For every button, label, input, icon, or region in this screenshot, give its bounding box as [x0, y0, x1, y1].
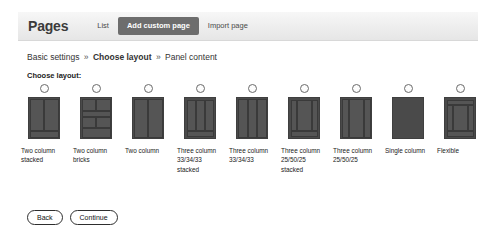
layout-radio-two-column-stacked[interactable] — [40, 84, 49, 93]
layout-radio-two-column-bricks[interactable] — [92, 84, 101, 93]
layout-segment — [205, 100, 214, 131]
layout-radio-three-column-33-34-33[interactable] — [248, 84, 257, 93]
layout-option-three-column-33-34-33-stacked[interactable]: Three column 33/34/33 stacked — [174, 84, 226, 174]
tab-import-page[interactable]: Import page — [201, 18, 255, 34]
layout-thumbnail-three-column-33-34-33-stacked[interactable] — [184, 97, 216, 139]
layout-segment — [447, 131, 474, 137]
layout-segment — [82, 128, 111, 138]
tab-add-custom-page[interactable]: Add custom page — [118, 17, 199, 35]
layout-option-label: Three column 25/50/25 stacked — [281, 146, 327, 174]
layout-segment — [96, 117, 111, 128]
layout-radio-single-column[interactable] — [404, 84, 413, 93]
layout-option-three-column-25-50-25-stacked[interactable]: Three column 25/50/25 stacked — [278, 84, 330, 174]
back-button[interactable]: Back — [27, 210, 63, 225]
layout-options-row: Two column stackedTwo column bricksTwo c… — [18, 84, 486, 174]
tab-list[interactable]: List — [90, 18, 116, 34]
layout-option-label: Two column bricks — [73, 146, 119, 165]
layout-segment — [196, 100, 205, 131]
layout-thumbnail-three-column-25-50-25-stacked[interactable] — [288, 97, 320, 139]
wizard-footer: Back Continue — [27, 210, 118, 225]
layout-thumbnail-three-column-25-50-25[interactable] — [340, 97, 372, 139]
layout-segment — [82, 117, 96, 128]
layout-segment — [187, 131, 214, 137]
layout-segment — [96, 99, 111, 111]
layout-segment — [82, 99, 96, 111]
layout-radio-two-column[interactable] — [144, 84, 153, 93]
breadcrumb-separator: » — [156, 52, 161, 62]
layout-option-label: Three column 33/34/33 — [229, 146, 275, 165]
layout-thumbnail-two-column[interactable] — [132, 97, 164, 139]
layout-option-three-column-25-50-25[interactable]: Three column 25/50/25 — [330, 84, 382, 165]
layout-segment — [30, 99, 44, 131]
layout-thumbnail-two-column-stacked[interactable] — [28, 97, 60, 139]
layout-option-label: Two column — [125, 146, 171, 155]
layout-segment — [468, 105, 474, 131]
layout-segment — [44, 99, 59, 131]
layout-thumbnail-three-column-33-34-33[interactable] — [236, 97, 268, 139]
layout-segment — [248, 99, 257, 138]
layout-radio-flexible[interactable] — [456, 84, 465, 93]
page-header-bar: Pages List Add custom page Import page — [18, 12, 478, 41]
breadcrumb-separator: » — [84, 52, 89, 62]
layout-segment — [312, 100, 318, 131]
layout-thumbnail-single-column[interactable] — [392, 97, 424, 139]
layout-segment — [148, 99, 163, 138]
breadcrumb-item-panel-content: Panel content — [165, 52, 217, 62]
layout-segment — [342, 99, 349, 138]
continue-button[interactable]: Continue — [70, 210, 118, 225]
layout-option-label: Two column stacked — [21, 146, 67, 165]
layout-option-two-column-stacked[interactable]: Two column stacked — [18, 84, 70, 165]
layout-radio-three-column-33-34-33-stacked[interactable] — [196, 84, 205, 93]
layout-radio-three-column-25-50-25[interactable] — [352, 84, 361, 93]
layout-option-two-column-bricks[interactable]: Two column bricks — [70, 84, 122, 165]
breadcrumb: Basic settings » Choose layout » Panel c… — [27, 52, 217, 62]
breadcrumb-item-basic-settings[interactable]: Basic settings — [27, 52, 79, 62]
choose-layout-label: Choose layout: — [27, 71, 81, 80]
breadcrumb-item-choose-layout: Choose layout — [93, 52, 152, 62]
layout-segment — [30, 131, 59, 138]
header-tabs: List Add custom page Import page — [90, 17, 255, 35]
layout-option-two-column[interactable]: Two column — [122, 84, 174, 155]
page-title: Pages — [28, 18, 68, 34]
layout-radio-three-column-25-50-25-stacked[interactable] — [300, 84, 309, 93]
layout-segment — [364, 99, 371, 138]
layout-segment — [187, 100, 196, 131]
layout-option-label: Three column 33/34/33 stacked — [177, 146, 223, 174]
layout-segment — [238, 99, 248, 138]
layout-segment — [297, 100, 312, 131]
layout-option-label: Three column 25/50/25 — [333, 146, 379, 165]
layout-option-single-column[interactable]: Single column — [382, 84, 434, 155]
layout-thumbnail-two-column-bricks[interactable] — [80, 97, 112, 139]
layout-segment — [257, 99, 267, 138]
layout-segment — [134, 99, 148, 138]
layout-thumbnail-flexible[interactable] — [444, 97, 476, 139]
layout-segment — [453, 105, 468, 131]
layout-option-label: Flexible — [437, 146, 483, 155]
layout-segment — [349, 99, 364, 138]
layout-option-three-column-33-34-33[interactable]: Three column 33/34/33 — [226, 84, 278, 165]
layout-segment — [291, 131, 318, 137]
layout-option-label: Single column — [385, 146, 431, 155]
layout-option-flexible[interactable]: Flexible — [434, 84, 486, 155]
